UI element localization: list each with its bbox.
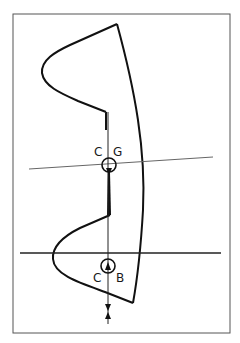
cb-arrow-icon [105,262,111,270]
arrow-down-icon [105,304,111,311]
lower-hull-outline [53,215,133,303]
cb-label-c: C [93,271,101,285]
cb-label-b: B [116,271,124,285]
stability-diagram: C G C B [0,0,240,343]
arrow-up-icon [105,312,111,319]
upper-hull-outline [42,24,117,130]
cg-label-g: G [113,145,122,159]
cg-label-c: C [94,145,102,159]
